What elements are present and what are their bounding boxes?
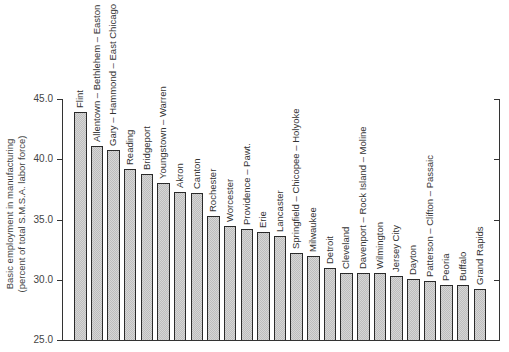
bar — [257, 232, 270, 340]
y-tick-left — [57, 99, 62, 100]
bar-label: Erie — [258, 211, 268, 228]
bar-label: Wilmington — [375, 222, 385, 269]
y-tick-label: 35.0 — [13, 214, 53, 225]
right-axis — [499, 99, 500, 341]
bar — [440, 285, 453, 340]
y-tick-label: 45.0 — [13, 93, 53, 104]
bar-label: Cleveland — [341, 226, 351, 268]
bar-label: Worcester — [225, 178, 235, 221]
y-tick-left — [57, 220, 62, 221]
bar-label: Jersey City — [391, 225, 401, 272]
bar-label: Patterson – Clifton – Passaic — [425, 155, 435, 277]
bar-label: Canton — [192, 158, 202, 189]
bar — [424, 281, 437, 340]
bar-label: Allentown – Bethlehem – Easton — [92, 5, 102, 142]
bar — [324, 268, 337, 340]
bar — [141, 174, 154, 340]
bar — [91, 146, 104, 340]
bar — [241, 229, 254, 340]
y-tick-left — [57, 280, 62, 281]
bar-label: Lancaster — [275, 191, 285, 233]
bar-label: Providence – Pawt. — [242, 143, 252, 225]
bar — [374, 273, 387, 340]
bar-label: Milwaukee — [308, 207, 318, 252]
bar-label: Detroit — [325, 236, 335, 264]
bar — [191, 193, 204, 340]
bar-chart: Basic employment in manufacturing (perce… — [0, 0, 509, 352]
bar — [224, 226, 237, 340]
y-tick-label: 40.0 — [13, 153, 53, 164]
x-axis-baseline — [62, 340, 500, 341]
bar — [390, 276, 403, 340]
bar-label: Youngstown – Warren — [158, 87, 168, 180]
y-tick-label: 30.0 — [13, 274, 53, 285]
bar-label: Springfield – Chicopee – Holyoke — [291, 109, 301, 249]
bar-label: Dayton — [408, 244, 418, 274]
bar-label: Akron — [175, 163, 185, 188]
bar — [274, 236, 287, 340]
bar-label: Peoria — [441, 253, 451, 280]
bar — [457, 285, 470, 340]
bar — [307, 256, 320, 340]
bar-label: Gary – Hammond – East Chicago — [108, 4, 118, 146]
bar — [207, 216, 220, 340]
bar — [124, 169, 137, 340]
y-tick-right — [494, 340, 499, 341]
y-tick-right — [494, 220, 499, 221]
bar-label: Rochester — [208, 169, 218, 212]
y-tick-right — [494, 99, 499, 100]
bar-label: Flint — [75, 90, 85, 108]
bar — [157, 183, 170, 340]
y-tick-right — [494, 280, 499, 281]
bar-label: Buffalo — [458, 251, 468, 280]
bar-label: Bridgeport — [142, 126, 152, 170]
bar — [174, 192, 187, 340]
y-tick-left — [57, 340, 62, 341]
bar — [74, 112, 87, 340]
bar — [407, 279, 420, 340]
bar-label: Davenport – Rock Island – Moline — [358, 126, 368, 269]
bar — [474, 289, 487, 340]
left-axis — [62, 99, 63, 341]
bar — [340, 273, 353, 340]
bar — [357, 273, 370, 340]
bar — [290, 253, 303, 340]
y-tick-right — [494, 159, 499, 160]
bar-label: Reading — [125, 129, 135, 164]
bar-label: Grand Rapids — [475, 227, 485, 286]
bar — [107, 150, 120, 340]
y-tick-left — [57, 159, 62, 160]
y-tick-label: 25.0 — [13, 334, 53, 345]
